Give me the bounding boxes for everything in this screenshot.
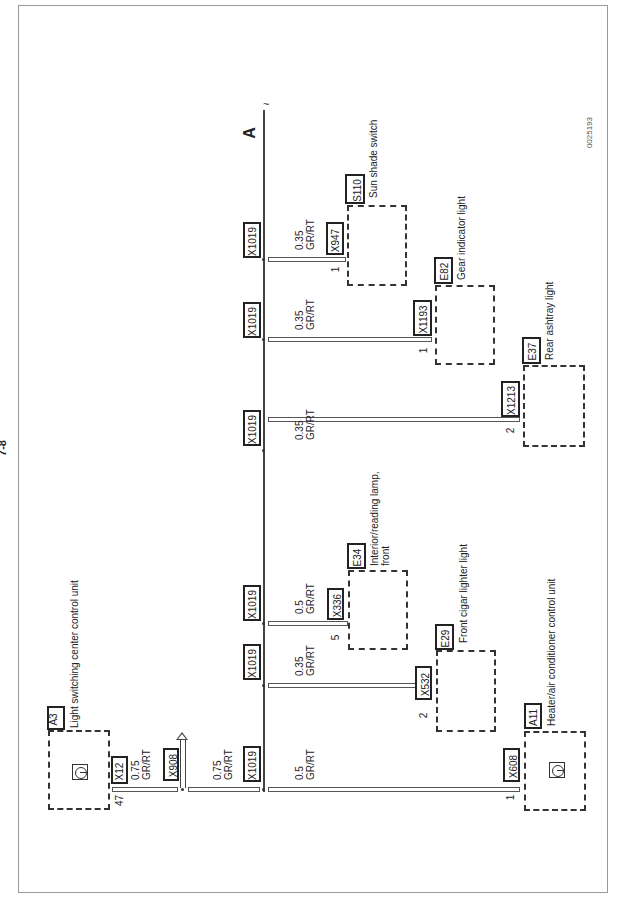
splice-tag-x1019-1[interactable]: X1019 — [243, 746, 261, 782]
connector-tag-x336[interactable]: X336 — [327, 588, 344, 620]
pin-number: 2 — [505, 428, 516, 434]
component-text: E29 — [440, 630, 451, 648]
junction-dot — [181, 788, 184, 791]
connector-text: X947 — [330, 229, 341, 252]
splice-tag-x1019-5[interactable]: X1019 — [243, 302, 261, 338]
wire-size: 0.35 — [294, 219, 305, 250]
splice-tag-x1019-2[interactable]: X1019 — [243, 644, 261, 680]
control-unit-symbol-icon — [549, 762, 565, 778]
component-label-s110: Sun shade switch — [368, 120, 379, 198]
splice-tag-x1019-4[interactable]: X1019 — [243, 410, 261, 446]
splice-text: X1019 — [247, 649, 258, 678]
wire-color: GR/RT — [305, 409, 316, 440]
connector-tag-x532[interactable]: X532 — [415, 666, 432, 700]
connector-text: X608 — [508, 755, 519, 778]
splice-text: X1019 — [247, 227, 258, 256]
page-number: 7-8 — [0, 438, 14, 462]
splice-text: X1019 — [247, 307, 258, 336]
component-text: E82 — [439, 263, 450, 281]
splice-tag-x1019-3[interactable]: X1019 — [243, 585, 261, 621]
splice-dot — [262, 788, 265, 791]
splice-text: X1019 — [247, 751, 258, 780]
splice-text: X1019 — [247, 590, 258, 619]
component-tag-a11[interactable]: A11 — [524, 703, 542, 729]
splice-tag-x1019-6[interactable]: X1019 — [243, 222, 261, 258]
connector-text: X336 — [332, 594, 343, 617]
component-label-a3: Light switching center control unit — [69, 580, 80, 728]
component-e29-box[interactable] — [436, 650, 496, 732]
wire-color: GR/RT — [305, 583, 316, 614]
wire-color: GR/RT — [141, 749, 152, 780]
component-text: S110 — [352, 179, 363, 202]
wire-color: GR/RT — [223, 749, 234, 780]
component-label-line1: Interior/reading lamp, — [369, 472, 380, 567]
wire-branch-e82[interactable] — [268, 337, 432, 342]
wire-spec-source: 0.75 GR/RT — [130, 749, 152, 780]
wire-color: GR/RT — [305, 219, 316, 250]
component-tag-e29[interactable]: E29 — [435, 624, 454, 650]
component-e37-box[interactable] — [523, 365, 585, 447]
connector-tag-x947[interactable]: X947 — [326, 222, 344, 255]
component-tag-e34[interactable]: E34 — [347, 543, 366, 569]
wire-size: 0.75 — [130, 749, 141, 780]
wire-branch-e29[interactable] — [268, 683, 432, 688]
connector-tag-x908-text: X908 — [168, 754, 179, 777]
drawing-id: 0025193 — [585, 117, 594, 148]
wire-size: 0.35 — [294, 299, 305, 330]
wire-size: 0.5 — [294, 583, 305, 614]
wire-branch-s110[interactable] — [268, 257, 346, 262]
break-mark-icon: ~ — [263, 98, 269, 110]
connector-text: X532 — [420, 673, 431, 696]
connector-tag-x608[interactable]: X608 — [503, 748, 520, 782]
component-tag-a3-text: A3 — [48, 713, 59, 725]
splice-dot — [262, 449, 265, 452]
splice-dot — [262, 258, 265, 261]
wire-spec-bus-segment: 0.75 GR/RT — [212, 749, 234, 780]
component-tag-e37[interactable]: E37 — [522, 337, 541, 364]
connector-tag-x1193[interactable]: X1193 — [413, 300, 432, 336]
wire-x908-bus[interactable] — [188, 787, 260, 792]
arrow-up-icon — [176, 732, 188, 740]
component-s110-box[interactable] — [347, 205, 407, 286]
wire-branch-a11[interactable] — [268, 787, 520, 792]
wire-spec-a11: 0.5 GR/RT — [294, 749, 316, 780]
pin-number: 1 — [505, 795, 516, 801]
component-e82-box[interactable] — [435, 285, 495, 365]
component-e34-box[interactable] — [348, 570, 408, 650]
component-label-e82: Gear indicator light — [456, 196, 467, 280]
component-label-line2: front — [380, 472, 391, 567]
wire-spec-e34: 0.5 GR/RT — [294, 583, 316, 614]
component-tag-e82[interactable]: E82 — [434, 257, 453, 284]
wire-size: 0.75 — [212, 749, 223, 780]
control-unit-symbol-icon — [72, 764, 88, 780]
splice-dot — [262, 684, 265, 687]
wire-color: GR/RT — [305, 299, 316, 330]
connector-tag-x1213[interactable]: X1213 — [501, 381, 520, 417]
splice-text: X1019 — [247, 415, 258, 444]
pin-number: 2 — [418, 713, 429, 719]
connector-tag-x908[interactable]: X908 — [163, 748, 179, 781]
component-tag-s110[interactable]: S110 — [345, 174, 365, 204]
component-label-a11: Heater/air conditioner control unit — [546, 579, 557, 726]
ground-arrow-line — [180, 740, 186, 788]
component-label-e37: Rear ashtray light — [544, 282, 555, 360]
continuation-label: A — [241, 127, 259, 139]
wire-branch-e34[interactable] — [268, 621, 348, 626]
wire-size: 0.35 — [294, 409, 305, 440]
component-tag-a3[interactable]: A3 — [47, 706, 65, 730]
component-text: E34 — [352, 549, 363, 567]
connector-text: X1193 — [418, 305, 429, 333]
wire-spec-e29: 0.35 GR/RT — [294, 645, 316, 676]
pin-number: 1 — [330, 267, 341, 273]
wire-a3-x908[interactable] — [112, 787, 178, 792]
wire-size: 0.35 — [294, 645, 305, 676]
component-label-e29: Front cigar lighter light — [458, 544, 469, 643]
component-text: E37 — [527, 343, 538, 361]
wire-size: 0.5 — [294, 749, 305, 780]
pin-number: 5 — [330, 635, 341, 641]
pin-number: 1 — [418, 348, 429, 354]
connector-text: X1213 — [506, 386, 517, 415]
splice-dot — [262, 622, 265, 625]
page-number-text: 7-8 — [0, 440, 8, 456]
connector-tag-x12[interactable]: X12 — [111, 756, 128, 784]
